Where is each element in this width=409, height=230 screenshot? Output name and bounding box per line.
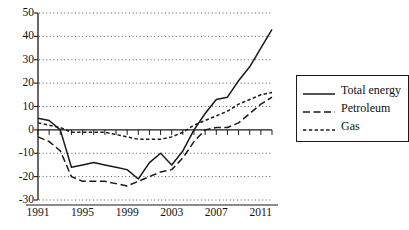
legend-label: Total energy: [341, 84, 401, 96]
legend-swatch-short-dash: [303, 121, 335, 131]
y-axis-tick-label: 0: [4, 124, 34, 136]
y-axis-tick-label: 40: [4, 30, 34, 42]
chart-svg: [0, 0, 290, 230]
gridlines: [39, 13, 272, 200]
x-axis-tick-label: 2011: [244, 206, 278, 218]
legend-swatch-solid: [303, 85, 335, 95]
chart-plot-area: 50403020100-10-20-30 1991199519992003200…: [0, 0, 290, 230]
y-axis-tick-label: 10: [4, 101, 34, 113]
legend-item: Gas: [303, 117, 401, 135]
y-axis-tick-labels: 50403020100-10-20-30: [0, 0, 34, 230]
x-axis-tick-label: 2007: [199, 206, 233, 218]
chart-legend: Total energyPetroleumGas: [296, 75, 409, 142]
x-axis-tick-label: 1995: [66, 206, 100, 218]
data-series-group: [38, 29, 272, 186]
series-line-gas: [38, 92, 272, 139]
x-axis-tick-label: 1991: [21, 206, 55, 218]
legend-label: Gas: [341, 120, 360, 132]
legend-swatch-long-dash: [303, 103, 335, 113]
x-axis-tick-labels: 199119951999200320072011: [0, 201, 290, 221]
scan-bleed-through: [300, 6, 396, 58]
y-axis-tick-label: 20: [4, 77, 34, 89]
legend-label: Petroleum: [341, 102, 390, 114]
y-axis-tick-label: 50: [4, 7, 34, 19]
series-line-total-energy: [38, 29, 272, 179]
y-axis-tick-label: -20: [4, 171, 34, 183]
x-axis-tick-label: 1999: [110, 206, 144, 218]
x-axis-tick-label: 2003: [155, 206, 189, 218]
legend-item: Total energy: [303, 81, 401, 99]
series-line-petroleum: [38, 97, 272, 186]
y-axis-tick-label: 30: [4, 54, 34, 66]
y-axis-tick-label: -10: [4, 147, 34, 159]
legend-item: Petroleum: [303, 99, 401, 117]
